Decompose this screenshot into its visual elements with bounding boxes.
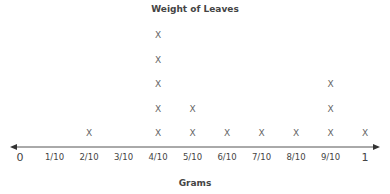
line-plot: 01/102/103/104/105/106/107/108/109/101 X…	[0, 0, 390, 194]
tick-label: 1	[362, 151, 369, 164]
x-mark: X	[155, 55, 161, 65]
tick-label: 4/10	[148, 152, 167, 162]
number-line-axis	[10, 144, 380, 150]
tick-label: 7/10	[252, 152, 271, 162]
x-mark: X	[327, 128, 333, 138]
right-arrow-icon	[373, 144, 380, 150]
x-mark: X	[258, 128, 264, 138]
tick-label: 6/10	[217, 152, 236, 162]
x-mark: X	[362, 128, 368, 138]
tick-label: 1/10	[45, 152, 64, 162]
tick-label: 3/10	[114, 152, 133, 162]
tick-label: 2/10	[79, 152, 98, 162]
x-mark: X	[293, 128, 299, 138]
x-mark: X	[155, 30, 161, 40]
tick-labels: 01/102/103/104/105/106/107/108/109/101	[17, 151, 369, 164]
left-arrow-icon	[10, 144, 17, 150]
tick-label: 0	[17, 151, 24, 164]
x-mark: X	[155, 104, 161, 114]
x-mark: X	[189, 128, 195, 138]
tick-label: 5/10	[183, 152, 202, 162]
x-mark: X	[327, 104, 333, 114]
x-mark: X	[327, 79, 333, 89]
x-mark: X	[155, 79, 161, 89]
x-mark: X	[155, 128, 161, 138]
x-axis-label: Grams	[0, 178, 390, 188]
x-mark: X	[86, 128, 92, 138]
data-marks: XXXXXXXXXXXXXXX	[86, 30, 368, 138]
x-mark: X	[189, 104, 195, 114]
tick-label: 8/10	[286, 152, 305, 162]
x-mark: X	[224, 128, 230, 138]
tick-label: 9/10	[321, 152, 340, 162]
